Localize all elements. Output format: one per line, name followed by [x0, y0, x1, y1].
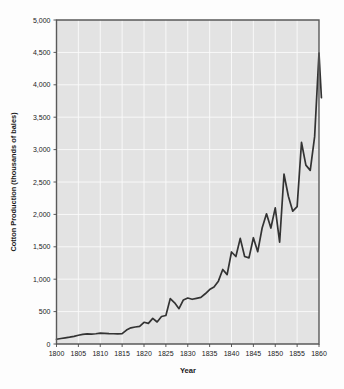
y-tick-label: 3,500 [33, 114, 51, 121]
x-tick-label: 1860 [311, 350, 327, 357]
y-tick-label: 4,000 [33, 81, 51, 88]
x-tick-label: 1855 [289, 350, 305, 357]
x-tick-label: 1805 [71, 350, 87, 357]
y-tick-label: 5,000 [33, 17, 51, 24]
y-axis-title: Cotton Production (thousands of bales) [9, 112, 18, 252]
y-tick-label: 2,500 [33, 179, 51, 186]
x-tick-label: 1830 [180, 350, 196, 357]
y-tick-label: 0 [47, 341, 51, 348]
y-tick-label: 4,500 [33, 49, 51, 56]
cotton-production-chart: 05001,0001,5002,0002,5003,0003,5004,0004… [0, 0, 344, 389]
chart-svg: 05001,0001,5002,0002,5003,0003,5004,0004… [0, 0, 344, 389]
x-tick-label: 1840 [224, 350, 240, 357]
x-tick-label: 1810 [92, 350, 108, 357]
x-axis-title: Year [180, 366, 196, 375]
x-tick-label: 1850 [267, 350, 283, 357]
x-tick-label: 1845 [246, 350, 262, 357]
x-tick-label: 1820 [136, 350, 152, 357]
x-tick-label: 1835 [202, 350, 218, 357]
x-tick-label: 1815 [114, 350, 130, 357]
y-tick-label: 1,000 [33, 276, 51, 283]
y-tick-label: 3,000 [33, 146, 51, 153]
y-tick-label: 1,500 [33, 243, 51, 250]
y-tick-label: 500 [39, 308, 51, 315]
x-tick-label: 1825 [158, 350, 174, 357]
x-tick-label: 1800 [49, 350, 65, 357]
y-tick-label: 2,000 [33, 211, 51, 218]
